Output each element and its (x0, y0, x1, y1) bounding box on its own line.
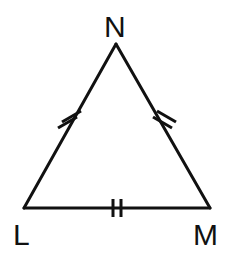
vertex-label-l: L (13, 220, 30, 250)
vertex-label-n: N (104, 12, 126, 42)
side-left-line (24, 44, 116, 208)
side-right-line (116, 44, 210, 208)
geometry-figure: N L M (0, 0, 238, 259)
vertex-label-m: M (193, 220, 218, 250)
triangle-outline (24, 44, 210, 208)
